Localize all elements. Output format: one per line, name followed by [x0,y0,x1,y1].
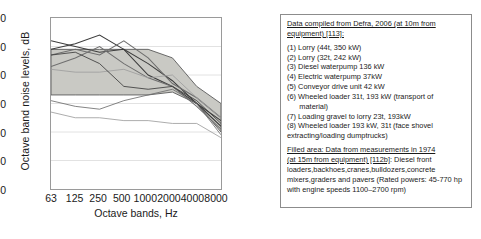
y-tick-label: 60 [0,128,6,139]
y-tick-label: 70 [0,99,6,110]
legend-item: (5) Conveyor drive unit 42 kW [287,82,466,92]
series-line [51,112,221,138]
legend-item: (2) Lorry (32t, 242 kW) [287,53,466,63]
legend-panel: Data compiled from Defra, 2006 (at 10m f… [280,14,472,208]
legend-header-line2: equipment) [113]: [287,29,466,39]
legend-item: (8) Wheeled loader 193 kW, 31t (face sho… [287,121,466,141]
y-tick-label: 100 [0,13,6,24]
y-axis-title: Octave band noise levels, dB [19,16,31,186]
y-tick-label: 40 [0,185,6,196]
plot-svg [51,18,221,189]
y-tick-label: 80 [0,70,6,81]
legend-filled-area-note: Filled area: Data from measurements in 1… [287,145,466,194]
legend-item: (3) Diesel waterpump 136 kW [287,62,466,72]
legend-item: (1) Lorry (44t, 350 kW) [287,43,466,53]
y-tick-label: 50 [0,156,6,167]
plot-area [50,17,222,190]
legend-item: (4) Electric waterpump 37kW [287,72,466,82]
legend-item: (7) Loading gravel to lorry 23t, 193kW [287,112,466,122]
legend-header-line1: Data compiled from Defra, 2006 (at 10m f… [287,19,466,29]
x-tick-label: 8000 [196,193,236,204]
x-axis-title: Octave bands, Hz [50,207,222,219]
legend-item: (6) Wheeled loader 31t, 193 kW (transpor… [287,92,466,112]
filled-head-line1: Filled area: Data from measurements in 1… [287,145,435,154]
y-tick-label: 90 [0,42,6,53]
filled-head-line2: (at 15m from equipment) [112b] [287,155,390,164]
figure-root: Octave band noise levels, dB 100 90 80 7… [0,0,481,239]
chart-panel: Octave band noise levels, dB 100 90 80 7… [0,0,232,239]
